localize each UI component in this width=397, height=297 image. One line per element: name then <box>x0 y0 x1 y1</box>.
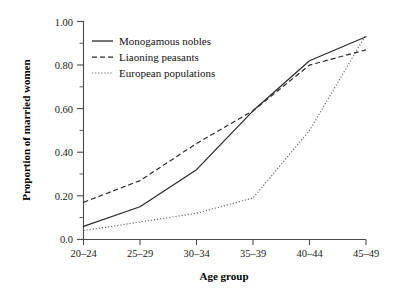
line-chart-canvas: 1.00 0.80 0.60 0.40 0.20 0.0 20–24 25–29… <box>0 0 397 297</box>
x-tick-label-2: 25–29 <box>127 248 153 259</box>
series-line-monogamous-nobles <box>84 37 367 227</box>
chart-figure: 1.00 0.80 0.60 0.40 0.20 0.0 20–24 25–29… <box>0 0 397 297</box>
legend-label-3: European populations <box>119 67 215 79</box>
x-tick-label-6: 45–49 <box>353 248 379 259</box>
legend-label-2: Liaoning peasants <box>119 51 199 63</box>
legend-label-1: Monogamous nobles <box>119 35 211 47</box>
chart-legend: Monogamous nobles Liaoning peasants Euro… <box>92 35 215 79</box>
y-tick-label-1: 1.00 <box>55 17 73 28</box>
y-axis-title: Proportion of married women <box>20 59 32 200</box>
y-tick-label-2: 0.80 <box>55 60 73 71</box>
x-tick-label-4: 35–39 <box>240 248 266 259</box>
x-tick-label-3: 30–34 <box>183 248 210 259</box>
y-tick-label-4: 0.40 <box>55 147 73 158</box>
y-tick-label-5: 0.20 <box>55 191 73 202</box>
x-tick-label-1: 20–24 <box>70 248 97 259</box>
x-ticks <box>84 240 367 246</box>
series-line-european-populations <box>84 35 367 231</box>
x-axis-title: Age group <box>200 270 249 282</box>
y-tick-label-6: 0.0 <box>60 234 73 245</box>
y-minor-ticks <box>80 43 84 217</box>
x-tick-label-5: 40–44 <box>296 248 323 259</box>
y-tick-label-3: 0.60 <box>55 104 73 115</box>
